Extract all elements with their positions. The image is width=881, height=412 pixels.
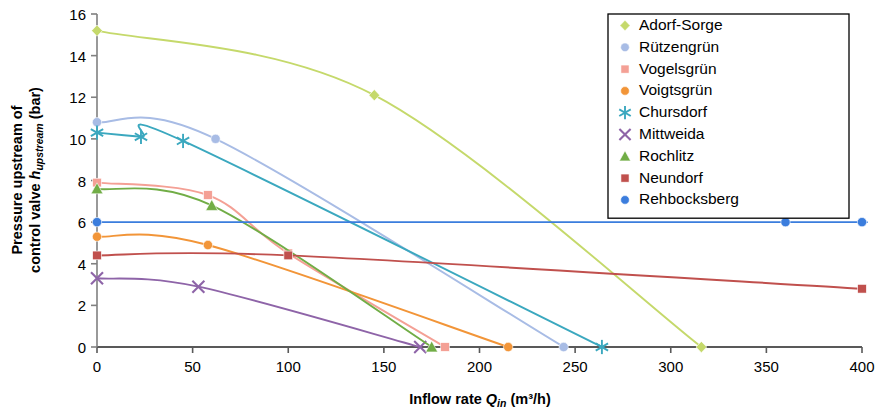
chart-container: 0246810121416 050100150200250300350400 A… <box>0 0 881 412</box>
data-point-marker <box>92 232 101 241</box>
series-mittweida <box>91 272 426 353</box>
y-tick-label: 14 <box>69 48 86 65</box>
legend-marker-icon <box>621 196 630 205</box>
series-r-tzengr-n <box>92 117 568 351</box>
data-point-marker <box>92 25 103 36</box>
line-chart: 0246810121416 050100150200250300350400 A… <box>0 0 881 412</box>
svg-text:Pressure upstream of: Pressure upstream of <box>9 105 25 254</box>
y-axis-tick-labels: 0246810121416 <box>69 6 86 356</box>
x-tick-label: 250 <box>563 358 588 375</box>
y-axis-title: Pressure upstream of control valve hupst… <box>9 87 45 273</box>
data-point-marker <box>206 199 218 210</box>
x-axis-title-suffix: (m³/h) <box>506 391 550 407</box>
legend-label: Mittweida <box>639 125 705 142</box>
series-line <box>97 188 432 347</box>
series-rehbocksberg <box>92 217 867 226</box>
y-tick-label: 16 <box>69 6 86 23</box>
legend-label: Neundorf <box>639 169 703 186</box>
chart-legend: Adorf-SorgeRützengrünVogelsgrünVoigtsgrü… <box>608 14 849 218</box>
y-tick-label: 6 <box>78 214 86 231</box>
data-point-marker <box>203 240 212 249</box>
legend-marker-icon <box>621 87 630 96</box>
data-point-marker <box>441 343 450 352</box>
legend-item[interactable]: Rehbocksberg <box>621 190 739 207</box>
x-tick-label: 150 <box>371 358 396 375</box>
x-tick-label: 0 <box>93 358 101 375</box>
y-axis-title-line2-prefix: control valve <box>27 179 43 272</box>
x-axis-title: Inflow rate Qin (m³/h) <box>409 391 551 409</box>
legend-label: Rochlitz <box>639 147 694 164</box>
y-axis-title-symbol: h <box>27 170 43 179</box>
x-tick-label: 300 <box>658 358 683 375</box>
legend-label: Vogelsgrün <box>639 60 717 77</box>
legend-label: Adorf-Sorge <box>639 16 723 33</box>
y-tick-label: 4 <box>78 256 86 273</box>
legend-label: Rützengrün <box>639 38 719 55</box>
x-axis-title-prefix: Inflow rate <box>409 391 486 407</box>
y-axis-title-line2-suffix: (bar) <box>27 87 43 123</box>
data-point-marker <box>93 251 102 260</box>
data-point-marker <box>92 217 101 226</box>
y-axis-title-line1: Pressure upstream of <box>9 105 25 254</box>
data-point-marker <box>92 118 101 127</box>
x-tick-label: 50 <box>184 358 201 375</box>
data-point-marker <box>858 284 867 293</box>
x-axis-title-symbol: Q <box>486 391 498 407</box>
legend-label: Voigtsgrün <box>639 81 712 98</box>
legend-marker-icon <box>621 43 630 52</box>
legend-marker-icon <box>621 65 629 73</box>
series-line <box>97 117 564 347</box>
series-chursdorf <box>91 125 608 355</box>
series-line <box>97 234 508 347</box>
data-point-marker <box>177 134 189 148</box>
data-point-marker <box>504 342 513 351</box>
x-tick-label: 100 <box>276 358 301 375</box>
data-point-marker <box>284 251 293 260</box>
data-point-marker <box>781 217 790 226</box>
series-line <box>97 125 602 347</box>
x-tick-label: 350 <box>754 358 779 375</box>
series-rochlitz <box>91 183 438 352</box>
legend-label: Chursdorf <box>639 103 708 120</box>
legend-label: Rehbocksberg <box>639 190 739 207</box>
data-point-marker <box>204 191 213 200</box>
svg-text:control valve hupstream (bar): control valve hupstream (bar) <box>27 87 45 273</box>
x-axis-tick-labels: 050100150200250300350400 <box>93 358 875 375</box>
series-voigtsgr-n <box>92 232 512 352</box>
y-tick-label: 10 <box>69 131 86 148</box>
x-tick-label: 400 <box>849 358 874 375</box>
data-point-marker <box>857 217 866 226</box>
legend-marker-icon <box>621 174 629 182</box>
y-tick-label: 0 <box>78 339 86 356</box>
y-tick-label: 2 <box>78 297 86 314</box>
y-axis-title-subscript: upstream <box>33 123 45 170</box>
data-point-marker <box>211 134 220 143</box>
x-tick-label: 200 <box>467 358 492 375</box>
series-line <box>97 278 420 347</box>
data-point-marker <box>369 90 380 101</box>
y-tick-label: 12 <box>69 89 86 106</box>
data-point-marker <box>559 342 568 351</box>
svg-text:Inflow rate Qin (m³/h): Inflow rate Qin (m³/h) <box>409 391 551 409</box>
series-line <box>97 253 862 289</box>
y-tick-label: 8 <box>78 173 86 190</box>
x-axis-title-subscript: in <box>497 397 506 409</box>
